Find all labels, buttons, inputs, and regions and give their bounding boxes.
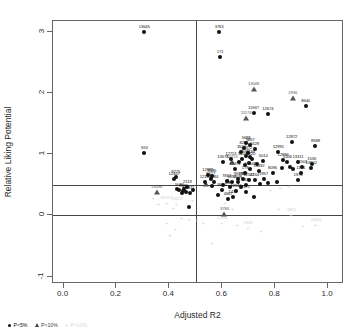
data-point	[203, 180, 207, 184]
data-point: +	[279, 186, 283, 190]
data-point-label: 13096	[151, 184, 162, 189]
data-point	[248, 167, 252, 171]
data-point-label: 11947	[248, 105, 259, 110]
data-point-label: 2244	[250, 172, 259, 177]
data-point	[271, 171, 275, 175]
data-point	[221, 211, 227, 216]
data-point: +	[152, 196, 156, 200]
reference-line-vertical	[196, 21, 197, 282]
x-tick-label: 1.0	[322, 289, 333, 298]
y-axis-label: Relative Liking Potential	[2, 20, 14, 283]
data-point	[290, 140, 294, 144]
data-point	[237, 160, 241, 164]
x-tick-label: 0.2	[110, 289, 121, 298]
data-point	[228, 185, 232, 189]
legend-plus-icon: +	[65, 323, 68, 327]
data-point	[210, 184, 214, 188]
data-point-label: 4667	[224, 191, 233, 196]
x-tick-mark	[327, 283, 328, 288]
y-tick-label: 0	[37, 212, 46, 216]
legend-item-P10: +P>10%	[65, 322, 87, 328]
y-tick-label: -1	[36, 272, 45, 279]
data-point-label: 4436	[242, 177, 251, 182]
data-point: +	[172, 206, 176, 210]
data-point-label: 13621	[171, 196, 182, 201]
data-point-label: 5106	[283, 154, 292, 159]
data-point	[244, 190, 248, 194]
data-point: +	[202, 221, 206, 225]
data-point-label: 171	[217, 49, 224, 54]
data-point-label: 12713	[225, 151, 236, 156]
data-point-label: 11174	[241, 110, 252, 115]
x-tick-mark	[63, 283, 64, 288]
data-point	[221, 160, 225, 164]
data-point-label: 9801	[287, 207, 296, 212]
y-tick-label: 2	[37, 90, 46, 94]
x-tick-mark	[168, 283, 169, 288]
data-point	[191, 188, 195, 192]
data-point	[243, 163, 247, 167]
data-point: +	[165, 221, 169, 225]
data-point	[266, 112, 270, 116]
data-point: +	[220, 221, 224, 225]
data-point-label: 13645	[139, 24, 150, 29]
data-point	[296, 178, 300, 182]
data-point-label: 12872	[286, 134, 297, 139]
data-point: +	[246, 226, 250, 230]
data-point	[187, 205, 191, 209]
data-point: +	[231, 207, 235, 211]
x-tick-label: 0.4	[163, 289, 174, 298]
data-point-label: 1931	[244, 220, 253, 225]
data-point-label: 13048	[248, 81, 259, 86]
legend-triangle-icon	[35, 323, 39, 327]
data-point-label: 1974	[294, 172, 303, 177]
data-point-label: 8640	[301, 98, 310, 103]
data-point	[258, 182, 262, 186]
data-point	[243, 115, 249, 120]
data-point	[290, 96, 296, 101]
data-point	[252, 195, 256, 199]
data-point	[226, 197, 230, 201]
data-point	[182, 187, 186, 191]
data-point: +	[269, 188, 273, 192]
data-point-label: 8096	[268, 165, 277, 170]
data-point: +	[180, 216, 184, 220]
y-axis-label-text: Relative Liking Potential	[3, 106, 13, 197]
data-point: +	[314, 223, 318, 227]
chart-legend: P<5%P<10%+P>10%	[8, 322, 87, 328]
data-point-label: 12674	[262, 106, 273, 111]
x-tick-mark	[115, 283, 116, 288]
legend-circle-icon	[8, 324, 11, 327]
data-point-label: 2936	[288, 90, 297, 95]
data-point	[262, 177, 266, 181]
data-point-label: 3763	[215, 24, 224, 29]
y-tick-label: 1	[37, 151, 46, 155]
data-point	[304, 104, 308, 108]
data-point	[285, 160, 289, 164]
data-point	[251, 86, 257, 91]
plot-frame: ++11217+13621+++++++++++12641++1931+++98…	[52, 20, 343, 283]
data-point	[175, 187, 179, 191]
data-point-label: 3784	[220, 206, 229, 211]
scatter-plot-figure: Relative Liking Potential 3210-1 ++11217…	[0, 0, 358, 336]
data-point	[142, 151, 146, 155]
data-point	[180, 191, 184, 195]
data-point-label: 5014	[259, 153, 268, 158]
x-axis-label: Adjusted R2	[52, 310, 343, 320]
data-point	[221, 183, 225, 187]
data-point	[216, 193, 220, 197]
data-point: +	[174, 227, 178, 231]
data-point	[188, 191, 192, 195]
data-point	[247, 161, 251, 165]
data-point	[154, 189, 160, 194]
data-point: +	[236, 223, 240, 227]
data-point	[217, 30, 221, 34]
data-point: +	[259, 229, 263, 233]
data-point: +	[223, 201, 227, 205]
data-point	[309, 166, 313, 170]
data-point	[313, 144, 317, 148]
data-point: +	[287, 184, 291, 188]
data-point-label: 13305	[310, 217, 321, 222]
x-tick-label: 0.0	[57, 289, 68, 298]
data-point: +	[168, 233, 172, 237]
